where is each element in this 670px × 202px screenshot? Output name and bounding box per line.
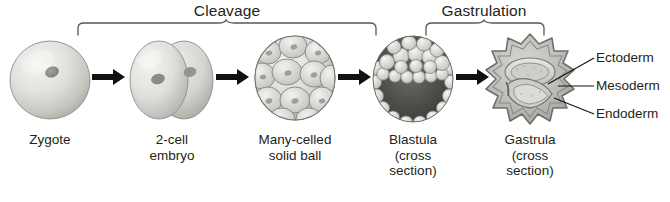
stage-caption-morula: Many-celled solid ball [236,132,354,163]
stage-caption-line2: solid ball [236,148,354,164]
stage-caption-zygote: Zygote [0,132,100,148]
morula-illustration [252,34,338,122]
stage-caption-line1: 2-cell [122,132,222,148]
phase-label-cleavage: Cleavage [78,2,376,20]
arrow-right-icon-1 [92,68,126,86]
stage-caption-line2: embryo [122,148,222,164]
stage-caption-line2: (cross [478,148,582,164]
germ-layer-label-ectoderm: Ectoderm [596,50,654,65]
germ-layer-label-mesoderm: Mesoderm [596,78,660,93]
blastula-illustration [370,34,456,124]
stage-caption-line2: (cross [363,148,463,164]
stage-caption-line3: section) [363,163,463,179]
stage-caption-blastula: Blastula (cross section) [363,132,463,179]
stage-caption-line1: Many-celled [236,132,354,148]
embryonic-development-figure: Cleavage Gastrulation Zygote [0,0,670,202]
stage-caption-line1: Gastrula [478,132,582,148]
stage-caption-line3: section) [478,163,582,179]
stage-caption-line1: Blastula [363,132,463,148]
germ-layer-leader-lines [524,48,596,120]
zygote-illustration [8,38,92,122]
germ-layer-label-endoderm: Endoderm [596,106,658,121]
phase-label-gastrulation: Gastrulation [408,2,560,20]
stage-caption-gastrula: Gastrula (cross section) [478,132,582,179]
arrow-right-icon-2 [216,68,250,86]
stage-caption-two-cell: 2-cell embryo [122,132,222,163]
arrow-right-icon-3 [338,68,372,86]
stage-caption-line1: Zygote [0,132,100,148]
two-cell-embryo-illustration [128,38,216,122]
